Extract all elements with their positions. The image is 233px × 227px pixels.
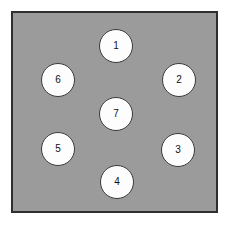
node-circle-3[interactable]: 3 (161, 133, 195, 167)
node-circle-7[interactable]: 7 (99, 97, 133, 131)
node-label: 5 (55, 144, 61, 154)
node-label: 3 (175, 145, 181, 155)
node-label: 1 (113, 41, 119, 51)
node-label: 4 (114, 177, 120, 187)
figure-root: 1234567 (0, 0, 233, 227)
node-circle-6[interactable]: 6 (41, 63, 75, 97)
node-label: 7 (113, 109, 119, 119)
node-circle-1[interactable]: 1 (99, 29, 133, 63)
node-label: 6 (55, 75, 61, 85)
node-label: 2 (176, 75, 182, 85)
node-circle-4[interactable]: 4 (100, 165, 134, 199)
node-circle-5[interactable]: 5 (41, 132, 75, 166)
node-circle-2[interactable]: 2 (162, 63, 196, 97)
